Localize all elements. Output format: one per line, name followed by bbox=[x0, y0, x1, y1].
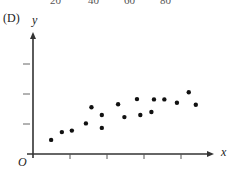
data-point bbox=[70, 128, 74, 132]
data-point bbox=[116, 102, 120, 106]
data-point bbox=[162, 97, 166, 101]
data-point bbox=[152, 97, 156, 101]
data-point bbox=[194, 103, 198, 107]
x-axis-arrow-icon bbox=[207, 151, 214, 157]
data-point bbox=[122, 115, 126, 119]
data-point bbox=[100, 113, 104, 117]
data-point bbox=[49, 138, 53, 142]
y-axis-arrow-icon bbox=[30, 32, 36, 39]
data-point bbox=[89, 105, 93, 109]
data-point bbox=[149, 110, 153, 114]
scatter-plot bbox=[0, 0, 228, 174]
data-point bbox=[135, 97, 139, 101]
data-point bbox=[175, 101, 179, 105]
data-point bbox=[100, 126, 104, 130]
data-point bbox=[187, 90, 191, 94]
data-point bbox=[138, 113, 142, 117]
data-point bbox=[84, 121, 88, 125]
data-point bbox=[60, 130, 64, 134]
